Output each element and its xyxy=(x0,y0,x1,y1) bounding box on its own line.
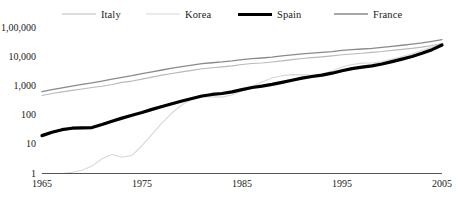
y-tick-label: 100 xyxy=(21,110,36,120)
x-tick-label: 1965 xyxy=(22,178,62,189)
x-tick-label: 2005 xyxy=(422,178,457,189)
x-tick-label: 1985 xyxy=(222,178,262,189)
y-tick-label: 1,00,000 xyxy=(1,23,36,33)
y-tick-label: 10 xyxy=(26,139,36,149)
series-line-italy xyxy=(42,44,442,96)
y-tick-label: 10,000 xyxy=(9,52,37,62)
x-tick-label: 1975 xyxy=(122,178,162,189)
series-line-spain xyxy=(42,45,442,136)
x-tick-label: 1995 xyxy=(322,178,362,189)
series-line-france xyxy=(42,40,442,92)
x-axis-labels: 19651975198519952005 xyxy=(0,178,449,194)
series-layer xyxy=(42,40,442,174)
y-axis-labels: 1,00,00010,0001,000100101 xyxy=(0,0,40,201)
y-tick-label: 1,000 xyxy=(14,81,37,91)
y-tick-label: 1 xyxy=(31,169,36,179)
